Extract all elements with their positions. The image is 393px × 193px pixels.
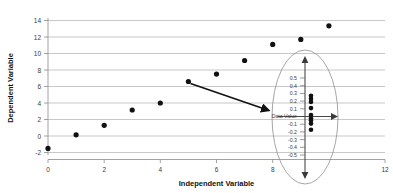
callout-arrow — [191, 84, 270, 111]
inset-axis-arrow-right-icon — [331, 113, 338, 120]
chart-svg: 14 12 10 8 6 4 2 0 -2 0 2 4 6 8 12 Indep… — [0, 0, 393, 193]
x-axis-title: Independent Variable — [179, 179, 254, 188]
inset-label-0.4: 0.4 — [290, 83, 297, 89]
data-point — [74, 132, 79, 137]
data-point — [326, 23, 331, 28]
y-tick-label-minus2: -2 — [35, 149, 41, 156]
y-tick-label-14: 14 — [34, 17, 42, 24]
y-tick-label-0: 0 — [37, 133, 41, 140]
data-point — [45, 146, 50, 151]
inset-data-point — [309, 100, 314, 105]
inset-label--0.2: -0.2 — [288, 129, 297, 135]
x-tick-label-0: 0 — [46, 166, 50, 173]
inset-label-0.5: 0.5 — [290, 75, 297, 81]
y-tick-label-12: 12 — [34, 34, 42, 41]
scatter-chart-figure: 14 12 10 8 6 4 2 0 -2 0 2 4 6 8 12 Indep… — [0, 0, 393, 193]
data-point — [102, 123, 107, 128]
x-tick-label-4: 4 — [158, 166, 162, 173]
y-tick-label-10: 10 — [34, 50, 42, 57]
inset-data-point — [309, 128, 314, 133]
y-tick-label-2: 2 — [37, 116, 41, 123]
data-point — [130, 107, 135, 112]
inset-axis-arrow-down-icon — [302, 172, 309, 179]
inset-data-series — [309, 93, 314, 132]
data-point — [270, 42, 275, 47]
axes — [48, 18, 385, 160]
inset-label-0.2: 0.2 — [290, 98, 297, 104]
inset-label--0.4: -0.4 — [288, 144, 297, 150]
inset-axis-arrow-up-icon — [302, 56, 309, 63]
x-axis-ticks: 0 2 4 6 8 12 — [46, 160, 389, 174]
inset-label--0.5: -0.5 — [288, 152, 297, 158]
y-tick-label-6: 6 — [37, 83, 41, 90]
y-tick-label-4: 4 — [37, 100, 41, 107]
y-axis-title: Dependent Variable — [6, 53, 15, 123]
y-tick-label-8: 8 — [37, 67, 41, 74]
inset-label-0.3: 0.3 — [290, 90, 297, 96]
inset-data-point — [309, 106, 314, 111]
data-point — [298, 37, 303, 42]
gridlines — [48, 21, 385, 137]
x-tick-label-8: 8 — [271, 166, 275, 173]
inset-label--0.1: -0.1 — [288, 121, 297, 127]
data-point — [242, 58, 247, 63]
x-tick-label-6: 6 — [215, 166, 219, 173]
data-point — [214, 72, 219, 77]
data-point — [186, 79, 191, 84]
x-tick-label-2: 2 — [102, 166, 106, 173]
data-point — [158, 100, 163, 105]
inset-label-0.1: 0.1 — [290, 106, 297, 112]
x-tick-label-12: 12 — [381, 166, 389, 173]
inset-data-point — [309, 121, 314, 126]
y-axis-ticks: 14 12 10 8 6 4 2 0 -2 — [34, 17, 48, 156]
inset-label--0.3: -0.3 — [288, 137, 297, 143]
inset-axis-label-data-value: Data Value — [272, 113, 297, 119]
